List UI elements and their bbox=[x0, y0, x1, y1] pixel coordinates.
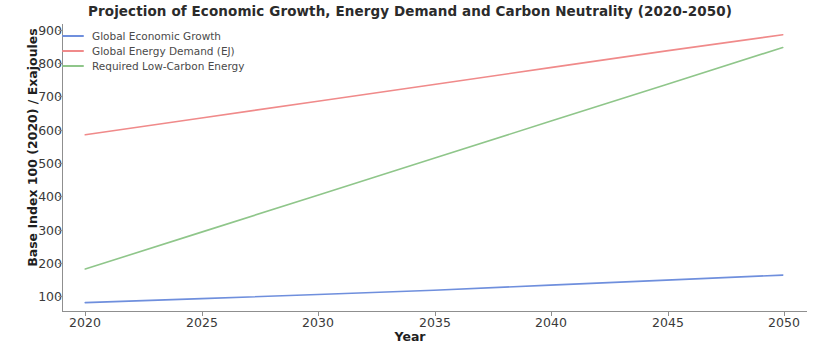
x-tick-label: 2040 bbox=[521, 315, 581, 330]
x-tick-label: 2030 bbox=[288, 315, 348, 330]
legend-label: Global Economic Growth bbox=[92, 30, 221, 42]
line-required-low-carbon-energy bbox=[85, 48, 783, 270]
legend-item-global-energy-demand: Global Energy Demand (EJ) bbox=[62, 43, 244, 58]
x-tick-label: 2025 bbox=[172, 315, 232, 330]
y-axis-label: Base Index 100 (2020) / Exajoules bbox=[25, 23, 40, 273]
line-global-economic-growth bbox=[85, 275, 783, 303]
x-tick-label: 2050 bbox=[754, 315, 814, 330]
chart-legend: Global Economic Growth Global Energy Dem… bbox=[58, 26, 248, 75]
chart-title: Projection of Economic Growth, Energy De… bbox=[0, 3, 820, 19]
x-tick-label: 2035 bbox=[405, 315, 465, 330]
legend-item-required-low-carbon-energy: Required Low-Carbon Energy bbox=[62, 58, 244, 73]
legend-item-global-economic-growth: Global Economic Growth bbox=[62, 28, 244, 43]
x-tick-label: 2045 bbox=[638, 315, 698, 330]
legend-label: Required Low-Carbon Energy bbox=[92, 60, 244, 72]
legend-swatch-icon bbox=[62, 50, 84, 52]
y-tick-label: 100 bbox=[18, 289, 62, 304]
legend-swatch-icon bbox=[62, 65, 84, 67]
chart-figure: Projection of Economic Growth, Energy De… bbox=[0, 0, 820, 342]
x-tick-label: 2020 bbox=[55, 315, 115, 330]
legend-swatch-icon bbox=[62, 35, 84, 37]
x-axis-label: Year bbox=[0, 329, 820, 342]
legend-label: Global Energy Demand (EJ) bbox=[92, 45, 235, 57]
